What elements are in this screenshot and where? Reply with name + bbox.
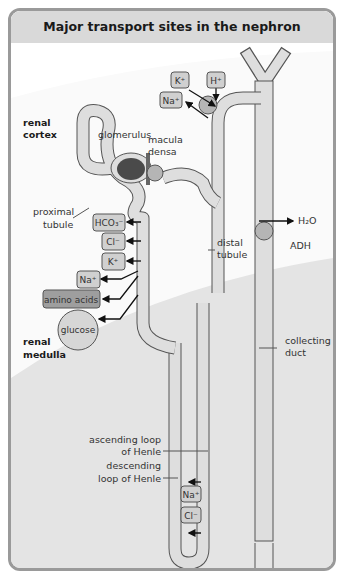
svg-text:H⁺: H⁺ xyxy=(210,76,222,86)
proximal-ion-cl: Cl⁻ xyxy=(102,233,125,250)
proximal-glucose: glucose xyxy=(58,310,98,350)
label-collecting-1: collecting xyxy=(285,335,331,346)
loop-ion-cl: Cl⁻ xyxy=(181,507,201,523)
loop-ion-na: Na⁺ xyxy=(181,486,201,502)
proximal-ion-hco3: HCO₃⁻ xyxy=(93,214,125,231)
svg-text:Na⁺: Na⁺ xyxy=(183,490,200,500)
svg-text:glucose: glucose xyxy=(61,325,96,335)
svg-text:K⁺: K⁺ xyxy=(108,257,119,267)
distal-ion-na: Na⁺ xyxy=(160,92,182,108)
label-distal-2: tubule xyxy=(217,249,247,260)
label-glomerulus: glomerulus xyxy=(98,129,151,140)
svg-text:HCO₃⁻: HCO₃⁻ xyxy=(95,218,124,228)
region-cortex-2: cortex xyxy=(23,129,57,140)
page-title: Major transport sites in the nephron xyxy=(11,11,333,43)
label-ascending-1: ascending loop xyxy=(89,434,161,445)
svg-text:Cl⁻: Cl⁻ xyxy=(106,237,120,247)
distal-ion-k: K⁺ xyxy=(171,72,189,88)
proximal-ion-k: K⁺ xyxy=(102,253,125,270)
proximal-amino-acids: amino acids xyxy=(43,290,100,308)
adh-cell-icon xyxy=(255,222,273,240)
distal-ion-h: H⁺ xyxy=(207,72,225,88)
region-cortex-1: renal xyxy=(23,117,51,128)
svg-text:amino acids: amino acids xyxy=(44,295,99,305)
svg-text:K⁺: K⁺ xyxy=(175,76,186,86)
label-proximal-2: tubule xyxy=(43,219,73,230)
svg-text:Na⁺: Na⁺ xyxy=(80,275,97,285)
label-macula-2: densa xyxy=(148,146,177,157)
label-collecting-2: duct xyxy=(285,347,306,358)
proximal-ion-na: Na⁺ xyxy=(77,271,100,288)
label-macula-1: macula xyxy=(148,134,183,145)
label-water: H₂O xyxy=(298,215,316,226)
label-distal-1: distal xyxy=(217,237,243,248)
label-proximal-1: proximal xyxy=(33,206,74,217)
glomerulus-icon xyxy=(117,158,145,180)
svg-text:Na⁺: Na⁺ xyxy=(163,96,180,106)
label-adh: ADH xyxy=(290,240,311,251)
label-descending-1: descending xyxy=(106,460,161,471)
diagram-frame: K⁺ H⁺ Na⁺ HCO₃⁻ Cl⁻ K⁺ Na⁺ amino acids xyxy=(8,8,336,571)
label-descending-2: loop of Henle xyxy=(98,473,161,484)
nephron-diagram: K⁺ H⁺ Na⁺ HCO₃⁻ Cl⁻ K⁺ Na⁺ amino acids xyxy=(11,11,333,568)
region-medulla-2: medulla xyxy=(23,349,66,360)
macula-densa-icon xyxy=(147,165,163,181)
svg-text:Cl⁻: Cl⁻ xyxy=(184,511,198,521)
region-medulla-1: renal xyxy=(23,336,51,347)
label-ascending-2: of Henle xyxy=(121,446,161,457)
